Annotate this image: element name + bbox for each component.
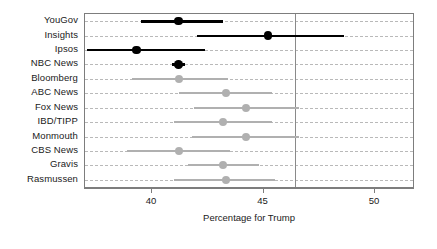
plot-panel (84, 13, 414, 188)
x-tick-label: 50 (369, 195, 380, 206)
estimate-point (174, 17, 183, 26)
estimate-point (219, 118, 227, 126)
estimate-point (222, 89, 230, 97)
gridline-row (85, 64, 413, 65)
y-axis-label-ipsos: Ipsos (55, 44, 78, 54)
estimate-point (175, 75, 183, 83)
poll-forest-chart: YouGovInsightsIpsosNBC NewsBloombergABC … (0, 0, 437, 249)
y-axis-label-nbc-news: NBC News (31, 58, 78, 68)
y-axis-category-labels: YouGovInsightsIpsosNBC NewsBloombergABC … (0, 0, 82, 249)
x-tick-mark (151, 188, 152, 193)
y-axis-label-insights: Insights (44, 30, 78, 40)
y-axis-label-ibd-tipp: IBD/TIPP (38, 116, 78, 126)
estimate-point (242, 133, 250, 141)
x-tick-label: 45 (257, 195, 268, 206)
estimate-point (175, 147, 183, 155)
reference-line-vertical (295, 14, 296, 187)
estimate-point (264, 31, 273, 40)
estimate-point (174, 60, 183, 69)
x-tick-mark (263, 188, 264, 193)
gridline-row (85, 21, 413, 22)
y-axis-label-bloomberg: Bloomberg (31, 73, 78, 83)
x-tick-mark (374, 188, 375, 193)
estimate-point (222, 176, 230, 184)
x-axis-title: Percentage for Trump (84, 212, 414, 224)
y-axis-label-yougov: YouGov (44, 15, 78, 25)
estimate-point (219, 161, 227, 169)
confidence-interval-bar (87, 49, 205, 51)
x-axis-line (84, 188, 414, 189)
y-axis-label-gravis: Gravis (50, 159, 78, 169)
y-axis-label-cbs-news: CBS News (31, 145, 78, 155)
y-axis-label-monmouth: Monmouth (32, 131, 78, 141)
y-axis-label-fox-news: Fox News (35, 102, 78, 112)
estimate-point (132, 46, 141, 55)
estimate-point (242, 104, 250, 112)
x-tick-label: 40 (146, 195, 157, 206)
y-axis-label-abc-news: ABC News (31, 87, 78, 97)
y-axis-label-rasmussen: Rasmussen (27, 174, 78, 184)
